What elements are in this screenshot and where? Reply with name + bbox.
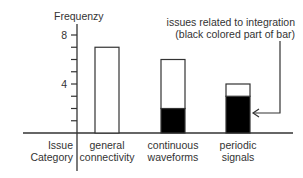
x-tick-label: signals: [222, 151, 255, 163]
bar-segment: [161, 60, 185, 109]
annotation-line2: (black colored part of bar): [175, 28, 295, 40]
bar-segment: [226, 96, 250, 133]
x-tick-label: connectivity: [80, 151, 136, 163]
x-axis-label-line2: Category: [30, 151, 73, 163]
x-axis-label-line1: Issue: [48, 139, 73, 151]
y-ticks: 48: [61, 29, 77, 121]
y-axis-label: Frequenzy: [54, 10, 104, 22]
annotation-leader-line: [253, 41, 280, 113]
annotation-line1: issues related to integration: [167, 16, 296, 28]
x-tick-label: general: [89, 139, 124, 151]
bar-segment: [226, 84, 250, 96]
x-tick-label: continuous: [148, 139, 199, 151]
y-tick-label: 8: [61, 29, 67, 41]
y-tick-label: 4: [61, 78, 67, 90]
bar-segment: [95, 47, 119, 133]
bars: [95, 47, 250, 133]
x-tick-labels: generalconnectivitycontinuouswaveformspe…: [80, 139, 257, 163]
x-tick-label: waveforms: [147, 151, 199, 163]
bar-segment: [161, 109, 185, 134]
bar-chart: Frequenzy 48 generalconnectivitycontinuo…: [0, 0, 303, 178]
x-tick-label: periodic: [220, 139, 257, 151]
